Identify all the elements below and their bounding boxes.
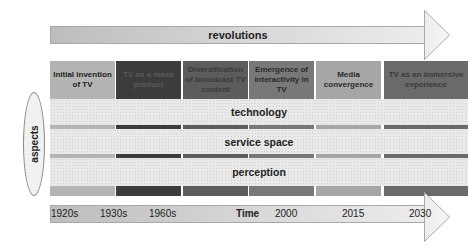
- aspects-label: aspects: [29, 125, 40, 162]
- time-tick: 1930s: [100, 208, 127, 219]
- column-bottom-strip: [50, 186, 115, 196]
- column-strip: [50, 125, 115, 129]
- column-strip: [384, 154, 468, 158]
- column-strip: [116, 154, 181, 158]
- time-tick: 1960s: [149, 208, 176, 219]
- band-perception: perception: [50, 158, 468, 186]
- column-strip: [316, 154, 381, 158]
- column-strip: [316, 125, 381, 129]
- revolutions-label: revolutions: [51, 27, 425, 43]
- column-strip: [249, 154, 314, 158]
- time-tick: 2000: [275, 208, 297, 219]
- time-tick: 2015: [342, 208, 364, 219]
- column-header-immersive-experience: TV as an immersive experience: [384, 61, 468, 99]
- time-tick: 2030: [409, 208, 431, 219]
- column-header-media-convergence: Media convergence: [316, 61, 381, 99]
- column-label: Media convergence: [318, 70, 379, 90]
- column-strip: [183, 125, 248, 129]
- column-strip: [50, 154, 115, 158]
- band-technology: technology: [50, 99, 468, 125]
- band-label: service space: [225, 136, 294, 148]
- column-bottom-strip: [116, 186, 181, 196]
- column-bottom-strip: [316, 186, 381, 196]
- time-tick: 1920s: [51, 208, 78, 219]
- column-label: Emergence of interactivity in TV: [251, 65, 312, 95]
- column-header-interactivity: Emergence of interactivity in TV: [249, 61, 314, 99]
- band-label: technology: [231, 106, 287, 118]
- column-label: Diversification of broadcast TV content: [185, 65, 246, 95]
- column-label: Initial invention of TV: [52, 70, 113, 90]
- column-label: TV as a mass product: [118, 70, 179, 90]
- column-bottom-strip: [249, 186, 314, 196]
- column-strip: [384, 125, 468, 129]
- revolutions-arrow-body: revolutions: [50, 26, 425, 44]
- column-header-diversification: Diversification of broadcast TV content: [183, 61, 248, 99]
- band-service-space: service space: [50, 129, 468, 154]
- column-strip: [116, 125, 181, 129]
- column-strip: [249, 125, 314, 129]
- time-axis-label: Time: [236, 208, 259, 219]
- arrow-head-icon: [424, 10, 450, 60]
- column-header-initial-invention: Initial invention of TV: [50, 61, 115, 99]
- band-label: perception: [232, 166, 286, 178]
- column-header-mass-product: TV as a mass product: [116, 61, 181, 99]
- column-label: TV as an immersive experience: [386, 70, 466, 90]
- column-bottom-strip: [183, 186, 248, 196]
- column-strip: [183, 154, 248, 158]
